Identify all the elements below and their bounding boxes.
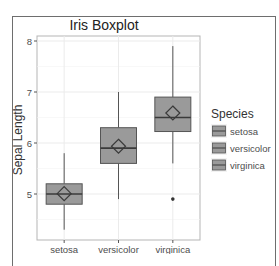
iqr-box xyxy=(155,97,191,131)
chart-title: Iris Boxplot xyxy=(69,17,138,33)
legend-label: setosa xyxy=(230,126,259,137)
legend-label: virginica xyxy=(230,160,266,171)
y-tick-label: 8 xyxy=(27,36,32,47)
legend-item-versicolor: versicolor xyxy=(211,141,271,155)
legend: Speciessetosaversicolorvirginica xyxy=(211,107,271,172)
iqr-box xyxy=(101,128,137,164)
y-tick-label: 7 xyxy=(27,87,32,98)
x-tick-label: versicolor xyxy=(98,244,139,254)
legend-title: Species xyxy=(211,107,254,121)
outlier-point xyxy=(171,197,175,201)
legend-item-virginica: virginica xyxy=(211,158,266,172)
x-tick-label: virginica xyxy=(155,244,191,254)
y-tick-label: 5 xyxy=(27,189,32,200)
plot-panel: setosaversicolorvirginica5678 xyxy=(27,36,200,255)
y-tick-label: 6 xyxy=(27,138,32,149)
x-tick-label: setosa xyxy=(50,244,79,254)
legend-item-setosa: setosa xyxy=(211,124,259,138)
y-axis-label: Sepal Length xyxy=(11,105,25,176)
legend-label: versicolor xyxy=(230,143,271,154)
